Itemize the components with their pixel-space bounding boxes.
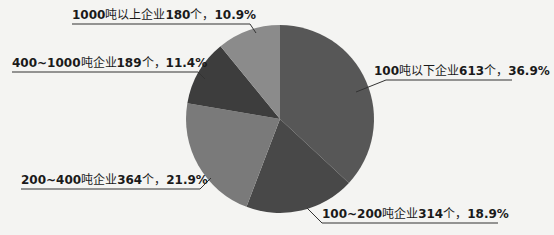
leader-line	[12, 72, 205, 79]
label-400-1000: 400~1000吨企业189个，11.4%	[12, 56, 207, 70]
label-200-400: 200~400吨企业364个，21.9%	[21, 173, 208, 187]
label-100-200: 100~200吨企业314个，18.9%	[322, 207, 509, 221]
pie-chart	[0, 0, 554, 235]
leader-line	[72, 24, 256, 33]
label-100-below: 100吨以下企业613个，36.9%	[374, 64, 550, 78]
label-1000-above: 1000吨以上企业180个，10.9%	[72, 8, 256, 22]
leader-line	[356, 80, 512, 92]
